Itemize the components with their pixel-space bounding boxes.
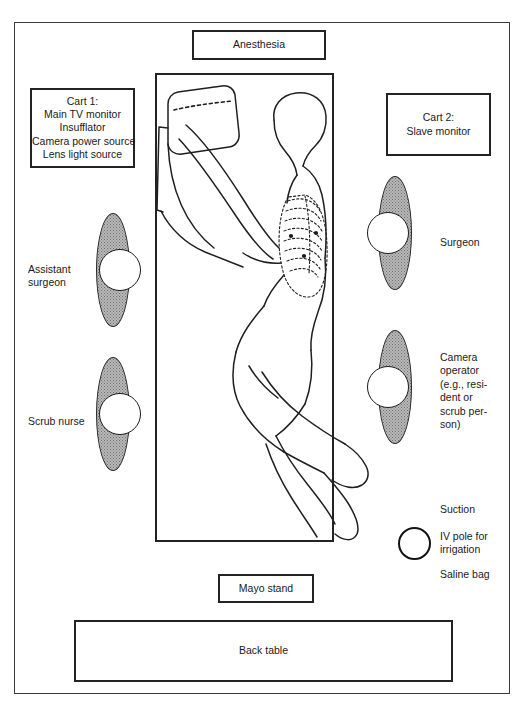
patient-port-sites [289,231,318,258]
diagram-canvas: Anesthesia Cart 1: Main TV monitor Insuf… [0,0,524,718]
iv-pole-label-line-2: irrigation [440,543,488,556]
patient-flank [236,306,264,352]
person-head-icon [99,393,141,435]
back-table-box: Back table [74,620,453,682]
patient-arm-upper [186,125,279,248]
patient-lower-leg-1 [284,452,324,473]
iv-pole-circle-icon [398,527,431,560]
saline-bag-label: Saline bag [440,568,490,581]
camera-operator-label-line-2: operator [440,364,487,377]
drape-seam-dotted [174,101,233,110]
patient-foot-lower [324,473,358,540]
patient-arm-lower [179,139,273,259]
assistant-surgeon-label: Assistant surgeon [28,263,71,290]
camera-operator-label-line-1: Camera [440,351,487,364]
patient-head [274,93,326,166]
drape-edge-lower [161,211,243,267]
patient-shoulder [287,175,297,203]
person-head-icon [367,212,409,254]
patient-back-upper [303,166,326,258]
patient-calf-contour [266,444,317,537]
mayo-stand-label: Mayo stand [222,582,310,595]
camera-operator-label-line-5: scrub per- [440,405,487,418]
person-head-icon [367,366,409,408]
patient-buttock [305,350,312,404]
patient-foot-upper [332,444,368,487]
patient-neck-back [274,120,297,175]
scrub-nurse-label-line-1: Scrub nurse [28,415,85,428]
assistant-surgeon-label-line-2: surgeon [28,276,71,289]
iv-pole-label: IV pole for irrigation [440,530,488,557]
person-head-icon [99,249,141,291]
camera-operator-label-line-6: son) [440,418,487,431]
back-table-label: Back table [78,644,449,657]
patient-abdomen-front [264,275,284,306]
drape-edge-left [157,127,168,212]
camera-operator-label-line-3: (e.g., resi- [440,378,487,391]
scrub-nurse-marker [85,357,139,469]
surgeon-label-line-1: Surgeon [440,236,480,249]
patient-thigh-crease [262,372,345,444]
iv-pole-label-line-1: IV pole for [440,530,488,543]
assistant-surgeon-marker [85,213,139,325]
patient-ribcage [279,195,327,297]
scrub-nurse-label: Scrub nurse [28,415,85,428]
surgeon-label: Surgeon [440,236,480,249]
patient-knee-crease [249,366,278,398]
surgeon-marker [367,176,421,288]
drape-fold [168,144,214,248]
saline-bag-label-line-1: Saline bag [440,568,490,581]
camera-operator-label: Camera operator (e.g., resi- dent or scr… [440,351,487,432]
patient-forearm-end [243,253,281,263]
camera-operator-label-line-4: dent or [440,391,487,404]
patient-thigh-back [276,404,305,436]
camera-operator-marker [367,330,421,442]
suction-label: Suction [440,503,475,516]
patient-leg-back-contour [276,436,335,524]
assistant-surgeon-label-line-1: Assistant [28,263,71,276]
mayo-stand-box: Mayo stand [218,574,314,603]
suction-label-line-1: Suction [440,503,475,516]
